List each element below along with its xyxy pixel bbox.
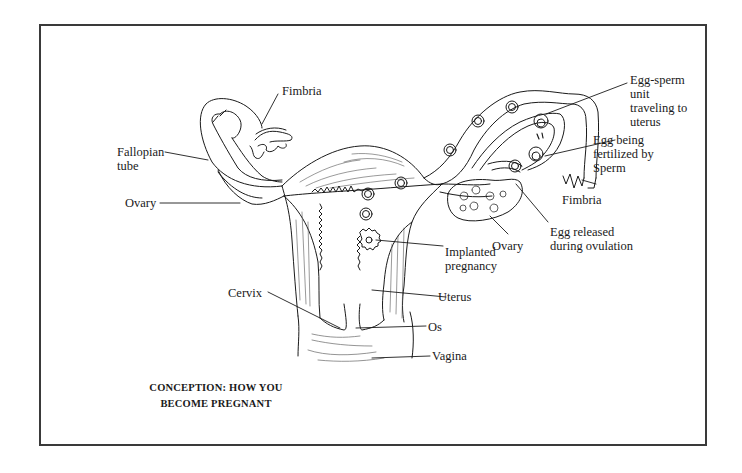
right-ovary <box>447 179 522 221</box>
left-fimbria <box>250 128 292 159</box>
caption-line2: BECOME PREGNANT <box>146 396 286 412</box>
uterus-body <box>282 146 442 322</box>
label-cervix: Cervix <box>228 286 262 300</box>
label-egg-being-fertilized: Egg being fertilized by Sperm <box>593 133 654 175</box>
label-egg-being-fertilized-line2: fertilized by <box>593 147 654 161</box>
right-fallopian-tube <box>424 91 599 197</box>
caption-line1: CONCEPTION: HOW YOU <box>146 380 286 396</box>
label-implanted-pregnancy-line1: Implanted <box>445 245 497 259</box>
label-egg-being-fertilized-line1: Egg being <box>593 133 654 147</box>
label-egg-sperm-unit-line1: Egg-sperm <box>630 73 687 87</box>
label-os: Os <box>428 320 442 334</box>
label-egg-sperm-unit-line3: traveling to <box>630 101 687 115</box>
label-fallopian-tube-line2: tube <box>117 159 164 173</box>
leader-lines <box>160 83 627 358</box>
label-implanted-pregnancy: Implanted pregnancy <box>445 245 497 273</box>
label-egg-released-line2: during ovulation <box>550 239 633 253</box>
label-fimbria-left: Fimbria <box>282 84 322 98</box>
label-egg-sperm-unit: Egg-sperm unit traveling to uterus <box>630 73 687 129</box>
label-fallopian-tube-line1: Fallopian <box>117 145 164 159</box>
left-fallopian-tube <box>200 99 282 187</box>
label-egg-released-line1: Egg released <box>550 225 633 239</box>
label-vagina: Vagina <box>432 349 467 363</box>
label-egg-sperm-unit-line4: uterus <box>630 115 687 129</box>
label-fimbria-right: Fimbria <box>562 193 602 207</box>
label-egg-released: Egg released during ovulation <box>550 225 633 253</box>
label-ovary-left: Ovary <box>125 196 156 210</box>
label-implanted-pregnancy-line2: pregnancy <box>445 259 497 273</box>
diagram-caption: CONCEPTION: HOW YOU BECOME PREGNANT <box>146 380 286 412</box>
label-uterus: Uterus <box>438 290 471 304</box>
label-fallopian-tube: Fallopian tube <box>117 145 164 173</box>
label-egg-sperm-unit-line2: unit <box>630 87 687 101</box>
label-egg-being-fertilized-line3: Sperm <box>593 161 654 175</box>
